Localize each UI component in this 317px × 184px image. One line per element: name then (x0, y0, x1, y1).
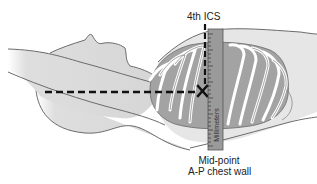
chest-diagram: 4th ICS Millimeters Mid-point A-P chest … (0, 0, 317, 184)
ruler-label: Millimeters (208, 100, 223, 150)
label-midpoint-line1: Mid-point (188, 155, 250, 166)
label-midpoint: Mid-point A-P chest wall (188, 155, 250, 177)
diagram-graphic (0, 0, 317, 184)
label-midpoint-line2: A-P chest wall (188, 166, 250, 177)
label-4th-ics: 4th ICS (187, 11, 220, 22)
ruler-label-text: Millimeters (212, 108, 219, 141)
